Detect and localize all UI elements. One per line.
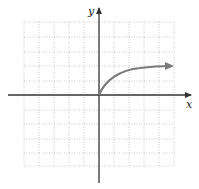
coordinate-plane: y x [0, 0, 199, 189]
function-curve [99, 66, 172, 95]
axes [8, 8, 191, 183]
y-axis-label: y [87, 5, 95, 18]
x-axis-label: x [186, 98, 193, 111]
